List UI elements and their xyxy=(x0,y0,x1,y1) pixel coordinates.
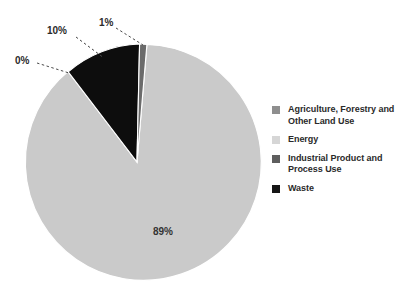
legend-item-label: Industrial Product and Process Use xyxy=(288,153,406,176)
legend-swatch-icon xyxy=(272,155,280,163)
leader-line-industrial xyxy=(116,28,143,45)
legend-item-industrial[interactable]: Industrial Product and Process Use xyxy=(272,153,414,176)
legend-item-label: Agriculture, Forestry and Other Land Use xyxy=(288,104,406,127)
pie-label-agriculture: 0% xyxy=(15,55,29,66)
legend-item-energy[interactable]: Energy xyxy=(272,134,414,146)
legend-swatch-icon xyxy=(272,106,280,114)
pie-label-waste: 10% xyxy=(47,25,67,36)
legend-item-waste[interactable]: Waste xyxy=(272,183,414,195)
leader-line-agriculture xyxy=(37,63,69,73)
legend-item-label: Waste xyxy=(288,183,314,195)
legend-swatch-icon xyxy=(272,185,280,193)
legend-swatch-icon xyxy=(272,136,280,144)
chart-legend: Agriculture, Forestry and Other Land Use… xyxy=(272,104,414,201)
pie-label-energy: 89% xyxy=(153,226,173,237)
pie-chart-figure: 1% 10% 0% 89% Agriculture, Forestry and … xyxy=(0,0,416,291)
pie-label-industrial: 1% xyxy=(99,17,113,28)
legend-item-agriculture[interactable]: Agriculture, Forestry and Other Land Use xyxy=(272,104,414,127)
legend-item-label: Energy xyxy=(288,134,318,146)
